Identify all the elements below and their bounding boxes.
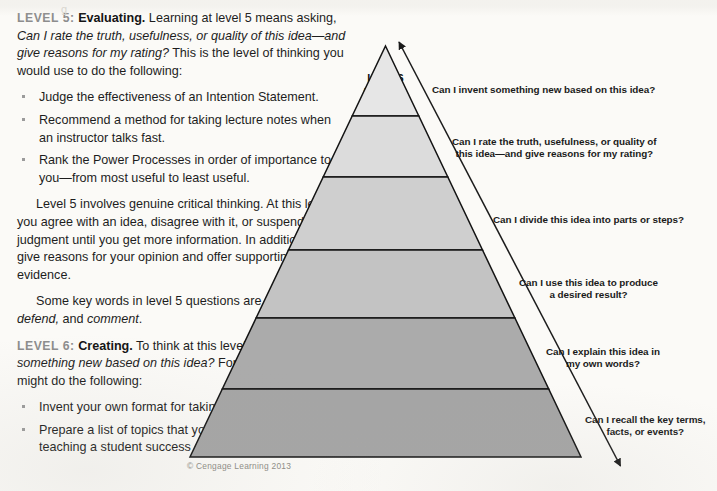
pyramid-level-2 [222, 318, 548, 389]
pyramid-level-1 [190, 389, 581, 457]
bloom-taxonomy-pyramid [0, 0, 717, 491]
pyramid-bands [190, 46, 581, 457]
pyramid-level-6 [352, 46, 419, 116]
pyramid-level-4 [289, 177, 483, 250]
pyramid-level-3 [256, 250, 515, 318]
pyramid-level-5 [323, 116, 448, 177]
